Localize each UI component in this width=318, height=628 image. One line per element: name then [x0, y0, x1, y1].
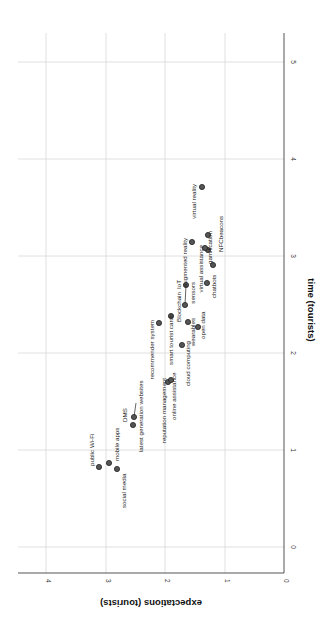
svg-text:2: 2 [290, 351, 297, 355]
label-social-media: social media [120, 473, 127, 508]
label-reputation-management: reputation management [160, 378, 167, 444]
label-smart-tourist-cards: smart tourist cards [167, 314, 174, 365]
svg-text:4: 4 [45, 579, 52, 583]
svg-text:0: 0 [283, 579, 290, 583]
label-augmented-reality: augmented reality [181, 237, 188, 287]
point-dms[interactable] [130, 422, 135, 427]
time-axis-title: time (tourists) [306, 278, 317, 341]
label-nfc-beacons: NFCbeacons [217, 216, 224, 252]
svg-text:2: 2 [164, 579, 171, 583]
label-gamification: gamification [206, 230, 213, 264]
label-blockchain: Blockchain [175, 292, 182, 322]
label-recommender-system: recommender system [148, 320, 155, 380]
label-virtual-reality: virtual reality [190, 183, 197, 219]
svg-text:1: 1 [224, 579, 231, 583]
label-online-assistance: online assistance [170, 372, 177, 420]
label-open-data: open data [199, 311, 206, 339]
svg-text:5: 5 [290, 60, 297, 64]
plot-area [18, 33, 284, 573]
label-public-wifi: public Wi-Fi [88, 434, 95, 466]
label-chatbots: chatbots [210, 275, 217, 298]
svg-text:4: 4 [290, 157, 297, 161]
svg-text:3: 3 [290, 254, 297, 258]
point-virtual-reality[interactable] [199, 184, 204, 189]
svg-text:1: 1 [290, 448, 297, 452]
scatter-chart: 0 1 2 3 4 5 0 1 2 3 4 time (tourists) ex… [0, 0, 318, 628]
point-social-media[interactable] [114, 466, 119, 471]
point-sensors[interactable] [204, 280, 209, 285]
point-recommender-system[interactable] [156, 320, 161, 325]
svg-text:0: 0 [290, 545, 297, 549]
point-latest-websites[interactable] [131, 414, 136, 419]
label-sensors: sensors [189, 282, 196, 304]
point-blockchain[interactable] [182, 302, 187, 307]
label-cloud-computing: cloud computing [184, 340, 191, 386]
label-wearables: wearables [189, 318, 196, 347]
point-public-wifi[interactable] [96, 464, 101, 469]
label-latest-websites: latest generation websites [137, 380, 144, 452]
label-dms: DMS [121, 408, 128, 422]
svg-text:3: 3 [105, 579, 112, 583]
label-mobile-apps: mobile apps [113, 428, 120, 461]
label-virtual-assistance: virtual assistance [197, 244, 204, 292]
expectation-axis-ticks: 0 1 2 3 4 [45, 579, 290, 583]
expectation-axis-title: expectations (tourists) [100, 598, 202, 609]
point-augmented-reality[interactable] [189, 239, 194, 244]
time-axis-ticks: 0 1 2 3 4 5 [290, 60, 297, 549]
point-mobile-apps[interactable] [106, 460, 111, 465]
